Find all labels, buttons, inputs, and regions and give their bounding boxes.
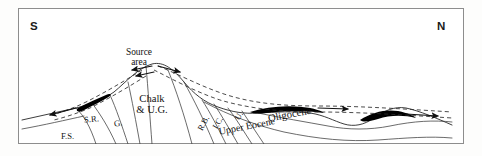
arrow-mid-right-icon xyxy=(318,108,348,109)
unit-label-g: G. xyxy=(113,118,123,129)
annotation-source-area: Source area xyxy=(113,47,165,67)
geological-cross-section-figure: S N xyxy=(0,0,482,156)
source-area-line-1: Source xyxy=(113,47,165,57)
arrow-far-left-icon xyxy=(50,108,76,115)
unit-label-fs: F.S. xyxy=(61,132,74,141)
arrow-source-left-icon-2 xyxy=(136,72,154,76)
source-area-line-2: area xyxy=(113,57,165,67)
flow-arrows xyxy=(50,66,438,116)
unit-label-sr: S.R. xyxy=(84,114,100,125)
chalk-line-2: & U.G. xyxy=(124,104,180,115)
unit-label-chalk-ug: Chalk & U.G. xyxy=(124,93,180,116)
chalk-line-1: Chalk xyxy=(124,93,180,104)
